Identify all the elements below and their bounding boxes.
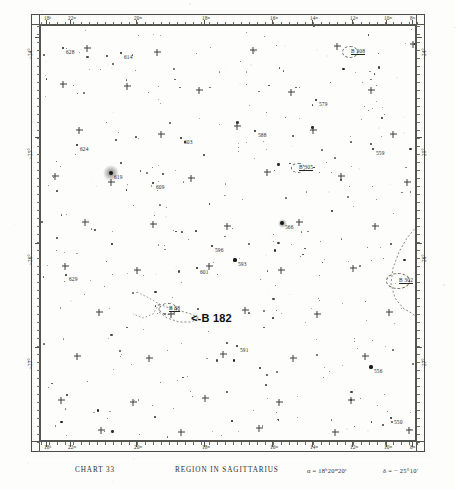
axis-tick-label: 18ʰ — [44, 15, 51, 21]
axis-tick-label: 18ʰ — [44, 444, 51, 450]
axis-gutter-top — [31, 14, 425, 25]
axis-tick — [417, 42, 420, 43]
axis-tick — [417, 130, 420, 131]
axis-tick — [41, 442, 42, 445]
axis-tick — [57, 442, 58, 445]
axis-tick-label: 10ᵐ — [384, 15, 392, 21]
axis-tick — [417, 122, 420, 123]
axis-tick — [417, 442, 420, 443]
axis-tick — [417, 306, 420, 307]
axis-tick — [281, 442, 282, 445]
b182-annotation: <-B 182 — [191, 312, 232, 324]
axis-tick — [129, 442, 130, 445]
paper-fleck — [112, 481, 114, 483]
axis-tick-label: −24° — [27, 48, 33, 59]
plate-caption: CHART 33 REGION IN SAGITTARIUS α = 18ʰ20… — [31, 462, 425, 478]
paper-fleck — [433, 72, 434, 73]
paper-fleck — [454, 27, 455, 28]
axis-tick — [169, 442, 170, 445]
axis-tick — [417, 114, 420, 115]
star-marker — [66, 440, 67, 441]
axis-tick — [417, 258, 420, 259]
axis-tick — [417, 242, 420, 243]
axis-tick-label: 22ᵐ — [68, 444, 76, 450]
axis-tick-label: 22ᵐ — [68, 15, 76, 21]
axis-tick — [321, 442, 322, 445]
axis-tick — [417, 243, 422, 244]
axis-tick — [417, 330, 420, 331]
axis-tick — [417, 34, 420, 35]
axis-tick — [417, 386, 420, 387]
axis-tick — [193, 442, 194, 445]
axis-tick — [417, 346, 420, 347]
axis-tick — [177, 442, 178, 445]
paper-fleck — [133, 458, 135, 460]
paper-fleck — [189, 3, 191, 5]
axis-tick — [417, 266, 420, 267]
axis-gutter-left — [31, 14, 40, 452]
caption-ra-center: α = 18ʰ20ᵐ20ˢ — [307, 467, 347, 474]
axis-tick — [417, 434, 420, 435]
axis-tick — [89, 442, 90, 445]
axis-tick — [345, 442, 346, 445]
axis-tick-label: 16ᵐ — [270, 15, 278, 21]
axis-tick — [233, 442, 234, 445]
axis-tick-label: 14ᵐ — [310, 15, 318, 21]
axis-tick-label: 18ᵐ — [202, 444, 210, 450]
axis-tick — [417, 418, 420, 419]
axis-tick — [217, 442, 218, 445]
axis-tick — [417, 282, 420, 283]
paper-fleck — [13, 132, 15, 134]
axis-tick-label: 12ᵐ — [350, 444, 358, 450]
axis-tick — [369, 442, 370, 445]
axis-tick — [417, 202, 420, 203]
axis-tick — [417, 162, 420, 163]
axis-tick-label: 14ᵐ — [310, 444, 318, 450]
axis-tick — [417, 250, 420, 251]
axis-tick — [305, 442, 306, 445]
paper-fleck — [14, 224, 16, 226]
axis-tick-label: −25° — [421, 148, 427, 159]
axis-tick — [121, 442, 122, 445]
axis-tick-label: 12ᵐ — [350, 15, 358, 21]
axis-tick — [337, 442, 338, 445]
axis-tick-label: 8ᵐ — [410, 444, 415, 450]
axis-tick-label: 10ᵐ — [384, 444, 392, 450]
b182-dark-lane-outline — [41, 26, 416, 441]
axis-tick — [417, 322, 420, 323]
paper-fleck — [443, 284, 445, 286]
axis-tick — [417, 338, 420, 339]
axis-tick — [185, 442, 186, 445]
axis-tick — [153, 442, 154, 445]
axis-tick — [417, 138, 420, 139]
axis-tick — [417, 274, 420, 275]
axis-tick — [297, 442, 298, 445]
axis-tick-label: −27° — [421, 358, 427, 369]
axis-tick — [417, 82, 420, 83]
axis-tick — [161, 442, 162, 445]
axis-tick — [417, 58, 420, 59]
axis-tick — [65, 442, 66, 445]
axis-tick — [241, 442, 242, 445]
axis-tick — [417, 290, 420, 291]
axis-tick — [417, 378, 420, 379]
axis-tick — [417, 210, 420, 211]
axis-tick — [417, 66, 420, 67]
axis-tick — [97, 442, 98, 445]
axis-tick — [417, 402, 420, 403]
axis-tick — [417, 178, 420, 179]
axis-tick — [105, 442, 106, 445]
paper-fleck — [8, 270, 9, 271]
axis-tick — [417, 50, 420, 51]
axis-tick — [417, 154, 420, 155]
axis-tick — [417, 146, 420, 147]
axis-tick — [37, 442, 40, 443]
axis-tick — [417, 98, 420, 99]
axis-tick — [417, 26, 420, 27]
axis-tick — [81, 442, 82, 445]
star-field-frame: 6286145425796035885596246196095665965405… — [40, 25, 416, 441]
axis-tick — [257, 442, 258, 445]
axis-tick — [113, 442, 114, 445]
axis-tick-label: 18ᵐ — [202, 15, 210, 21]
